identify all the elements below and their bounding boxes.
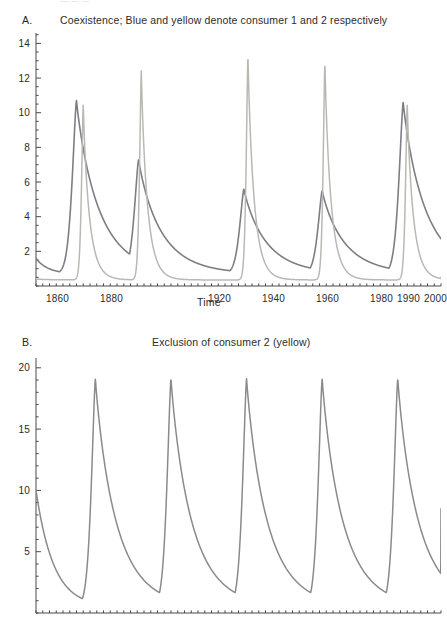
- svg-text:1990: 1990: [397, 293, 420, 304]
- svg-text:15: 15: [18, 424, 30, 435]
- svg-text:1940: 1940: [262, 293, 285, 304]
- svg-text:1980: 1980: [370, 293, 393, 304]
- panel-a-plot: 2468101214186018801990192019401960198020…: [0, 14, 447, 330]
- panel-a-xaxis-title: Time: [197, 296, 221, 308]
- svg-text:12: 12: [18, 73, 30, 84]
- clipped-header-text: — — —: [60, 0, 390, 6]
- panel-a: A. Coexistence; Blue and yellow denote c…: [0, 14, 447, 330]
- svg-text:2: 2: [24, 246, 30, 257]
- svg-text:4: 4: [24, 211, 30, 222]
- svg-text:2000: 2000: [424, 293, 447, 304]
- svg-text:8: 8: [24, 142, 30, 153]
- svg-text:10: 10: [18, 485, 30, 496]
- svg-text:1960: 1960: [316, 293, 339, 304]
- svg-text:6: 6: [24, 177, 30, 188]
- svg-text:14: 14: [18, 38, 30, 49]
- panel-b-plot: 5101520: [0, 336, 447, 617]
- svg-text:1860: 1860: [46, 293, 69, 304]
- svg-text:10: 10: [18, 107, 30, 118]
- svg-text:20: 20: [18, 362, 30, 373]
- panel-b: B. Exclusion of consumer 2 (yellow) 5101…: [0, 336, 447, 617]
- figure-root: — — — A. Coexistence; Blue and yellow de…: [0, 0, 447, 617]
- svg-text:1880: 1880: [100, 293, 123, 304]
- svg-text:5: 5: [24, 546, 30, 557]
